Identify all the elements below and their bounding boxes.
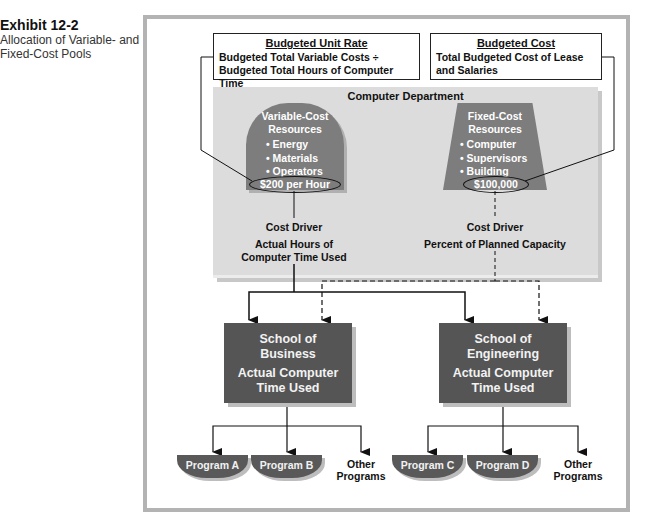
other-programs-engineering: Other Programs (548, 458, 608, 482)
school-name-line1: School of (439, 332, 567, 347)
school-usage-line2: Time Used (439, 381, 567, 396)
school-of-engineering-box: School of Engineering Actual Computer Ti… (439, 323, 567, 403)
other-line2: Programs (331, 470, 391, 482)
school-usage-line2: Time Used (224, 381, 352, 396)
school-usage-line1: Actual Computer (439, 366, 567, 381)
other-programs-business: Other Programs (331, 458, 391, 482)
school-of-business-box: School of Business Actual Computer Time … (224, 323, 352, 403)
connector-lines (0, 0, 660, 529)
school-name-line1: School of (224, 332, 352, 347)
other-line1: Other (331, 458, 391, 470)
school-name-line2: Engineering (439, 347, 567, 362)
school-name-line2: Business (224, 347, 352, 362)
other-line1: Other (548, 458, 608, 470)
school-usage-line1: Actual Computer (224, 366, 352, 381)
other-line2: Programs (548, 470, 608, 482)
